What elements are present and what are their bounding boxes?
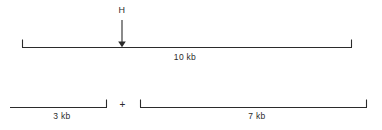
- parent-fragment-10kb: [22, 40, 352, 48]
- plus-operator-symbol: +: [120, 100, 126, 110]
- cut-site-arrow: [118, 20, 126, 47]
- down-arrow-head: [118, 42, 126, 48]
- parent-fragment-length-label: 10 kb: [174, 53, 196, 62]
- product-fragment-7kb: [140, 100, 367, 108]
- fragment-3kb-length-label: 3 kb: [53, 112, 70, 121]
- cut-site-label-h: H: [119, 6, 126, 15]
- product-fragment-3kb: [10, 100, 107, 108]
- fragment-7kb-length-label: 7 kb: [248, 112, 265, 121]
- restriction-map-figure: H 10 kb 3 kb + 7 kb: [0, 0, 382, 130]
